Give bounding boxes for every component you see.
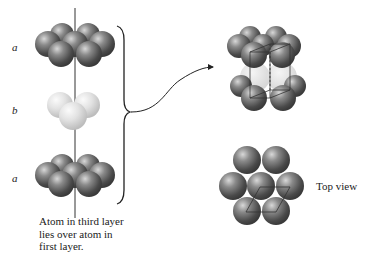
top-view-label: Top view xyxy=(316,180,357,192)
arrow-to-unit-cell xyxy=(131,67,213,112)
layer-label-b: b xyxy=(12,104,18,116)
layer-b-spheres xyxy=(47,92,100,130)
top-view-spheres xyxy=(219,146,304,225)
caption-line-1: Atom in third layer xyxy=(39,215,159,228)
layer-label-a-top: a xyxy=(12,41,18,53)
caption-line-2: lies over atom in xyxy=(39,228,159,241)
hcp-diagram: a b a Atom in third layer lies over atom… xyxy=(0,0,369,262)
caption: Atom in third layer lies over atom in fi… xyxy=(39,215,159,253)
grouping-brace xyxy=(117,26,130,204)
caption-line-3: first layer. xyxy=(39,240,159,253)
layer-label-a-bottom: a xyxy=(12,172,18,184)
